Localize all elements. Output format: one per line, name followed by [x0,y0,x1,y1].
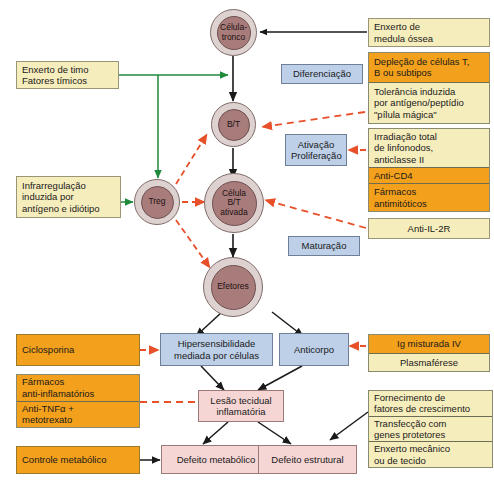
cell-treg: Treg [134,179,180,225]
metabolic-defect-label: Defeito metabólico [162,454,270,466]
bone-marrow-line-1: Enxerto de [369,21,489,33]
tolerance-line-3: "pílula mágica" [369,109,489,121]
box-hypersensitivity: Hipersensibilidade mediada por células [160,333,273,366]
edge-treg-to-bt [176,134,207,184]
ig-label: Ig misturada IV [369,338,489,350]
cell-bt: B/T [211,102,256,147]
thymus-line-2: Fatores tímicos [17,75,118,87]
band-mechanical-graft: Enxerto mecânico ou de tecido [369,442,492,467]
downreg-line-2: induzida por [17,191,120,203]
ciclosporina-label: Ciclosporina [17,344,139,356]
edge-hypersensitivity-to-lesion [201,366,224,390]
box-downregulation: Infrarregulação induzida por antígeno e … [16,176,121,218]
band-antimitotic-drugs: Fármacos antimitóticos [369,184,489,211]
edge-antibody-to-lesion [258,366,302,390]
edge-antiil2r-to-activated [265,200,366,228]
thymus-line-1: Enxerto de timo [17,64,118,76]
box-tissue-lesion: Lesão tecidual inflamatória [198,390,284,422]
antibody-label: Anticorpo [280,344,348,356]
stack-ig-plasmapheresis: Ig misturada IV Plasmaférese [368,334,490,372]
band-plasmapheresis: Plasmaférese [369,354,489,372]
lesion-line-1: Lesão tecidual [199,395,283,407]
irradiation-line-3: anticlasse II [369,154,489,166]
mechanical-graft-line-1: Enxerto mecânico [369,443,492,455]
irradiation-line-2: de linfonodos, [369,142,489,154]
cell-activated-label-3: ativada [220,208,247,218]
cell-stem: Célula- tronco [210,9,257,56]
diagram-canvas: Célula- tronco B/T Treg Célula B/T ativa… [0,0,494,484]
differentiation-label: Diferenciação [282,68,362,80]
growth-line-1: Fornecimento de [369,392,492,404]
band-ig-iv: Ig misturada IV [369,335,489,354]
band-transfection: Transfecção com genes protetores [369,417,492,443]
process-box-differentiation: Diferenciação [281,64,363,84]
process-box-maturation: Maturação [288,236,360,256]
band-induced-tolerance: Tolerância induzida por antígeno/peptídi… [369,83,489,123]
process-box-activation: Ativação Proliferação [285,134,347,166]
anti-tnf-line-1: Anti-TNFα + [17,403,139,415]
cell-treg-label: Treg [148,197,165,207]
box-thymus-graft: Enxerto de timo Fatores tímicos [16,61,119,89]
cell-bt-label: B/T [227,120,240,130]
band-growth-factor-supply: Fornecimento de fatores de crescimento [369,391,492,417]
edge-growth-to-structuraldefect [330,412,368,440]
mechanical-graft-line-2: ou de tecido [369,455,492,467]
growth-line-2: fatores de crescimento [369,403,492,415]
edge-lesion-to-structural-defect [258,422,291,444]
structural-defect-label: Defeito estrutural [259,454,356,466]
depletion-line-1: Depleção de células T, [369,56,489,68]
box-metabolic-defect: Defeito metabólico [161,445,271,474]
lesion-line-2: inflamatória [199,406,283,418]
cell-effectors: Efetores [203,257,263,317]
band-anti-inflammatory-drugs: Fármacos anti-inflamatórios [17,375,139,402]
cell-activated-bt: Célula B/T ativada [204,173,264,233]
bone-marrow-line-2: medula óssea [369,33,489,45]
stack-irradiation-drugs: Irradiação total de linfonodos, anticlas… [368,128,490,212]
edge-tolerance-to-bt [262,112,365,127]
box-structural-defect: Defeito estrutural [258,445,357,474]
tolerance-line-2: por antígeno/peptídio [369,97,489,109]
box-antibody: Anticorpo [279,333,349,366]
depletion-line-2: B ou subtipos [369,67,489,79]
band-anti-cd4: Anti-CD4 [369,168,489,184]
metabolic-control-label: Controle metabólico [17,454,139,466]
hypersensitivity-line-2: mediada por células [161,350,272,362]
maturation-label: Maturação [289,240,359,252]
antimitotic-line-2: antimitóticos [369,198,489,210]
band-total-lymphoid-irradiation: Irradiação total de linfonodos, anticlas… [369,129,489,168]
box-metabolic-control: Controle metabólico [16,446,140,474]
edge-lesion-to-metabolic-defect [203,422,228,444]
antimitotic-line-1: Fármacos [369,186,489,198]
anti-cd4-label: Anti-CD4 [369,170,489,182]
activation-label-2: Proliferação [286,150,346,162]
anti-tnf-line-2: metotrexato [17,414,139,426]
stack-growth-factors: Fornecimento de fatores de crescimento T… [368,390,493,468]
edge-treg-to-effectors [176,220,210,268]
downreg-line-3: antígeno e idiótipo [17,203,120,215]
hypersensitivity-line-1: Hipersensibilidade [161,338,272,350]
tolerance-line-1: Tolerância induzida [369,86,489,98]
anti-inflam-line-1: Fármacos [17,376,139,388]
band-anti-tnf-methotrexate: Anti-TNFα + metotrexato [17,402,139,428]
plasmapheresis-label: Plasmaférese [369,357,489,369]
box-bone-marrow-graft: Enxerto de medula óssea [368,18,490,47]
cell-stem-label-2: tronco [222,33,246,43]
stack-anti-inflammatory: Fármacos anti-inflamatórios Anti-TNFα + … [16,374,140,428]
anti-inflam-line-2: anti-inflamatórios [17,388,139,400]
box-ciclosporina: Ciclosporina [16,334,140,366]
irradiation-line-1: Irradiação total [369,131,489,143]
box-anti-il2r: Anti-IL-2R [368,218,490,239]
downreg-line-1: Infrarregulação [17,180,120,192]
transfection-line-1: Transfecção com [369,418,492,430]
cell-effectors-label: Efetores [217,282,249,292]
stack-depletion-tolerance: Depleção de células T, B ou subtipos Tol… [368,52,490,124]
activation-label-1: Ativação [286,139,346,151]
anti-il2r-label: Anti-IL-2R [369,223,489,235]
band-cell-depletion: Depleção de células T, B ou subtipos [369,53,489,83]
transfection-line-2: genes protetores [369,429,492,441]
